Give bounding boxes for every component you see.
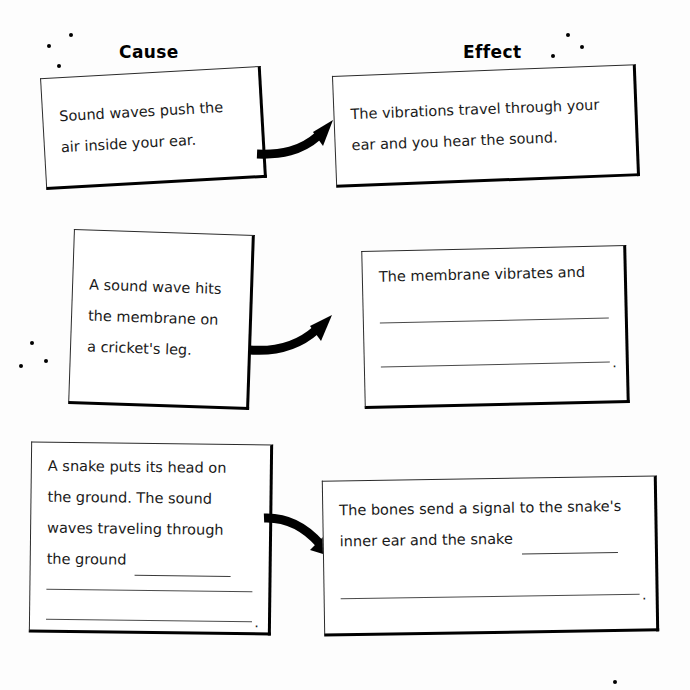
decorative-dot [44,359,48,363]
decorative-dot [566,33,570,37]
text-line: A sound wave hits [89,270,235,306]
answer-blank-inline[interactable] [521,537,617,555]
answer-blank-line[interactable] [381,360,610,367]
decorative-dot [69,33,73,37]
text-line: inner ear and the snake [340,531,513,550]
decorative-dot [19,364,23,368]
text-line: waves traveling through [47,513,253,547]
decorative-dot [57,64,61,68]
sentence-period: . [612,354,617,370]
effect-box-row-3-content: The bones send a signal to the snake's i… [323,476,656,633]
effect-box-row-3: The bones send a signal to the snake's i… [322,475,659,636]
answer-blank-line-final-wrap: . [380,318,610,367]
cause-box-row-2-content: A sound wave hits the membrane on a cric… [69,230,252,407]
text-line: The membrane vibrates and [378,256,608,292]
answer-blank-inline[interactable] [135,560,231,577]
cause-box-row-2: A sound wave hits the membrane on a cric… [68,229,255,410]
decorative-dot [47,44,51,48]
text-line: the membrane on [88,301,234,337]
decorative-dot [613,680,617,684]
sentence-period: . [642,587,647,603]
answer-blank-line-final-wrap: . [340,553,640,600]
worksheet-page: Cause Effect Sound waves push the air in… [0,0,690,690]
text-line: the ground. The sound [47,482,253,516]
effect-box-row-1: The vibrations travel through your ear a… [332,64,640,188]
column-header-effect: Effect [463,42,522,62]
decorative-dot [551,54,555,58]
text-line: A snake puts its head on [48,451,254,485]
sentence-period: . [254,614,259,630]
answer-blank-line-final-wrap: . [46,590,252,623]
text-line-with-blank: the ground [47,544,253,578]
answer-blank-line[interactable] [341,593,640,600]
text-line: the ground [47,551,127,568]
effect-box-row-1-content: The vibrations travel through your ear a… [333,65,637,184]
cause-box-row-1: Sound waves push the air inside your ear… [40,66,267,190]
text-line: a cricket's leg. [87,332,233,368]
decorative-dot [580,45,584,49]
text-line-with-blank: inner ear and the snake [340,522,639,558]
cause-box-row-1-content: Sound waves push the air inside your ear… [41,67,264,187]
effect-box-row-2-content: The membrane vibrates and . [362,246,626,406]
connector-arrow-row-2 [248,308,358,360]
effect-box-row-2: The membrane vibrates and . [361,245,630,409]
text-line: The bones send a signal to the snake's [339,491,638,527]
answer-blank-line[interactable] [46,618,252,623]
column-header-cause: Cause [119,42,179,62]
decorative-dot [30,341,34,345]
cause-box-row-3-content: A snake puts its head on the ground. The… [30,443,270,633]
cause-box-row-3: A snake puts its head on the ground. The… [29,442,273,636]
